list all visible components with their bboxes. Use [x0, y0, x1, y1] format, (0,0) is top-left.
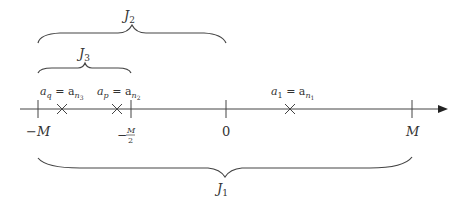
tick-label-neg-half-M: − M 2 — [117, 126, 136, 145]
brace-label-J2: J2 — [121, 8, 135, 25]
point-label-a1: a1 = an1 — [271, 85, 314, 101]
point-label-ap: ap = an2 — [97, 85, 141, 101]
brace-J1 — [38, 157, 412, 177]
tick-label-denominator: 2 — [128, 136, 133, 145]
brace-J2 — [38, 25, 226, 43]
axis-arrow-icon — [438, 105, 448, 113]
number-line-diagram: −M − M 2 0 M aq = an3 ap = an2 a1 = an1 … — [0, 0, 450, 205]
brace-label-J1: J1 — [214, 181, 228, 198]
tick-label-neg-M: −M — [26, 124, 51, 139]
tick-label-sign: − — [117, 128, 127, 142]
brace-J3 — [38, 63, 131, 73]
tick-label-M: M — [405, 124, 420, 139]
tick-label-zero: 0 — [222, 124, 230, 139]
tick-label-numerator: M — [126, 126, 136, 135]
point-label-aq: aq = an3 — [40, 85, 84, 101]
brace-label-J3: J3 — [76, 46, 90, 63]
